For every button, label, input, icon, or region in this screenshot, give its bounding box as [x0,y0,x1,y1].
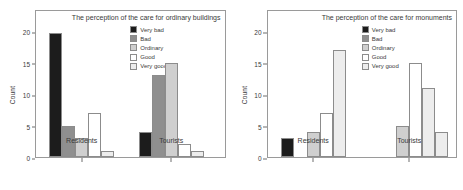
y-tick-label: 5 [258,123,262,130]
y-tick-label: 20 [23,29,30,36]
bar-tourists-very-good[interactable] [422,88,435,157]
bar-tourists-good[interactable] [178,144,191,157]
bar-residents-very-bad[interactable] [49,33,62,157]
y-tick-label: 0 [258,155,262,162]
y-tick-label: 0 [26,155,30,162]
y-tick-label: 5 [26,123,30,130]
x-tick-label-residents: Residents [66,137,97,144]
bars-container-right [268,19,457,157]
bar-residents-very-bad[interactable] [281,138,294,157]
bar-residents-good[interactable] [88,113,101,157]
x-tick-mark [313,158,314,162]
panel-monuments: Count 05101520 The perception of the car… [232,0,463,190]
bar-tourists-very-good[interactable] [191,151,204,157]
figure-two-panel-bar-charts: Count 05101520 The perception of the car… [0,0,463,190]
bar-residents-good[interactable] [320,113,333,157]
y-axis-ticks-left: 05101520 [13,18,35,158]
x-tick-label-tourists: Tourists [159,137,183,144]
bar-tourists-very-good-extra[interactable] [435,132,448,157]
y-tick-label: 15 [254,60,261,67]
panel-ordinary-buildings: Count 05101520 The perception of the car… [0,0,232,190]
x-tick-label-tourists: Tourists [397,137,421,144]
bar-residents-very-good[interactable] [333,50,346,157]
plot-area-right: The perception of the care for monuments… [267,10,458,158]
x-tick-mark [171,158,172,162]
bar-residents-ordinary[interactable] [307,132,320,157]
y-tick-label: 20 [254,29,261,36]
y-axis-ticks-right: 05101520 [245,18,267,158]
plot-area-left: The perception of the care for ordinary … [35,10,226,158]
bars-container-left [36,19,225,157]
y-tick-label: 15 [23,60,30,67]
bar-tourists-very-bad[interactable] [139,132,152,157]
x-tick-mark [81,158,82,162]
bar-residents-very-good[interactable] [101,151,114,157]
y-tick-label: 10 [23,92,30,99]
y-tick-label: 10 [254,92,261,99]
bar-tourists-bad[interactable] [152,75,165,157]
x-tick-mark [409,158,410,162]
x-tick-label-residents: Residents [298,137,329,144]
